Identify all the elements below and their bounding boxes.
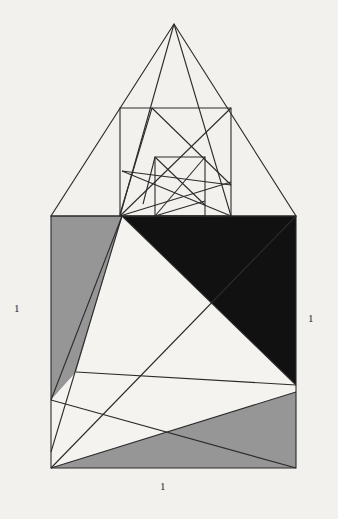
figure-canvas: 1 1 1 [0,0,338,519]
dimension-label-bottom: 1 [160,481,166,492]
dimension-label-left: 1 [14,303,20,314]
geometry-figure [0,0,338,519]
dimension-label-right: 1 [308,313,314,324]
